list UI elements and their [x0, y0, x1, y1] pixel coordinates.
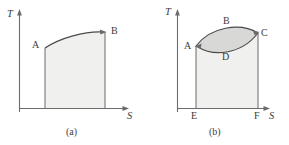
panel-a-caption: (a) [66, 127, 77, 137]
panel-a-point-label-b: B [111, 26, 118, 36]
panel-b-s-axis-label: S [269, 111, 274, 122]
panel-b-point-label-b: B [223, 16, 230, 26]
figure-container: T S A B (a) T S A B C D E F (b) [0, 0, 289, 145]
panel-b-point-label-d: D [222, 52, 229, 62]
panel-b-point-label-a: A [184, 41, 191, 51]
panel-b-point-label-e: E [191, 111, 197, 121]
panel-b-caption: (b) [209, 127, 221, 137]
panel-a-point-label-a: A [32, 40, 39, 50]
panel-b-t-axis-arrow [175, 9, 180, 16]
panel-b-point-label-f: F [254, 111, 260, 121]
panel-a-t-axis-label: T [7, 9, 13, 20]
panel-b-point-label-c: C [261, 28, 268, 38]
panel-a-s-axis-label: S [127, 111, 132, 122]
panel-a-t-axis-arrow [17, 9, 22, 16]
figure-canvas [0, 0, 289, 145]
panel-b-t-axis-label: T [165, 7, 171, 18]
